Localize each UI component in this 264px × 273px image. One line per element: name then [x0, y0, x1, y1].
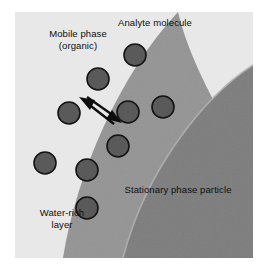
diagram-figure: Mobile phase (organic) Analyte molecule …	[15, 12, 253, 258]
water-rich-layer-label: Water-rich layer	[23, 207, 101, 230]
analyte-molecule	[107, 135, 129, 157]
analyte-molecule-label: Analyte molecule	[99, 17, 211, 29]
analyte-molecule	[34, 152, 56, 174]
stationary-phase-label: Stationary phase particle	[113, 184, 243, 196]
analyte-molecule	[58, 102, 80, 124]
figure-canvas: Mobile phase (organic) Analyte molecule …	[0, 0, 264, 273]
analyte-molecule	[76, 159, 98, 181]
analyte-molecule	[152, 96, 174, 118]
analyte-molecule	[117, 101, 139, 123]
analyte-molecule	[87, 68, 109, 90]
mobile-phase-label: Mobile phase (organic)	[23, 28, 133, 51]
